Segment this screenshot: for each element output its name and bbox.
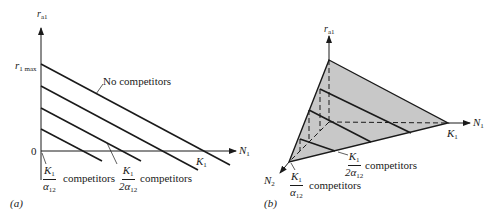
figure-svg — [0, 0, 488, 219]
b-r-sub: a1 — [328, 28, 335, 36]
b-frac2-numerator: K1 — [348, 151, 361, 166]
panel-b-r-axis-label: ra1 — [324, 24, 335, 36]
panel-b-n2-label: N2 — [264, 175, 275, 188]
b-frac2-denominator: 2α12 — [345, 166, 363, 180]
b-frac1-numerator: K1 — [290, 171, 303, 186]
b-n1-sub: 1 — [480, 122, 484, 130]
panel-b-plot — [280, 36, 470, 173]
leader-b-frac1 — [291, 163, 295, 170]
frac2-denominator: 2α12 — [119, 180, 137, 194]
panel-b-frac1: K1 α12 — [290, 171, 303, 200]
frac2-num-sym: K — [123, 164, 130, 176]
panel-a-origin-label: 0 — [31, 146, 37, 157]
y-axis-sub: a1 — [41, 13, 48, 21]
panel-a-frac1-text: competitors — [63, 173, 115, 184]
panel-b-frac2: K1 2α12 — [345, 151, 363, 180]
panel-b-frac1-text: competitors — [309, 180, 361, 191]
frac1-denominator: α12 — [43, 180, 56, 194]
panel-a-frac2-text: competitors — [140, 173, 192, 184]
leader-no-competitors — [96, 84, 103, 94]
panel-a-k1-label: K1 — [196, 156, 207, 169]
panel-b-k1-label: K1 — [447, 128, 458, 141]
frac2-den-sub: 12 — [130, 186, 137, 194]
panel-b-frac2-text: competitors — [365, 160, 417, 171]
no-competitors-label: No competitors — [103, 76, 171, 87]
b-frac2-num-sub: 1 — [356, 156, 360, 164]
line-4 — [41, 129, 102, 161]
line-3 — [41, 108, 141, 161]
panel-b-n2-axis — [280, 162, 289, 173]
ymax-sub: 1 max — [19, 65, 36, 73]
panel-a-y-axis-label: ra1 — [37, 9, 48, 21]
panel-a-frac1: K1 α12 — [43, 165, 56, 194]
frac1-numerator: K1 — [43, 165, 56, 180]
b-frac1-denominator: α12 — [290, 186, 303, 200]
frac1-den-sub: 12 — [49, 186, 56, 194]
b-frac2-num-sym: K — [349, 150, 356, 162]
panel-b-n1-label: N1 — [473, 117, 484, 130]
panel-a-tag: (a) — [10, 198, 23, 209]
panel-a-x-axis-label: N1 — [239, 145, 250, 158]
b-frac1-num-sub: 1 — [298, 176, 302, 184]
b-k-sub: 1 — [454, 133, 458, 141]
x-axis-sub: 1 — [246, 150, 250, 158]
frac1-num-sub: 1 — [51, 170, 55, 178]
frac2-num-sub: 1 — [130, 170, 134, 178]
leader-frac1 — [42, 153, 46, 164]
panel-b-tag: (b) — [264, 198, 277, 209]
line-2 — [41, 86, 198, 170]
frac2-den-sym: 2α — [119, 180, 130, 192]
k-sub: 1 — [203, 161, 207, 169]
panel-a-ymax-label: r1 max — [15, 60, 37, 73]
panel-b-surface — [289, 60, 448, 162]
b-n2-sub: 2 — [271, 180, 275, 188]
b-frac2-den-sym: 2α — [345, 166, 356, 178]
frac2-numerator: K1 — [122, 165, 135, 180]
panel-a-frac2: K1 2α12 — [119, 165, 137, 194]
b-frac1-den-sub: 12 — [296, 192, 303, 200]
